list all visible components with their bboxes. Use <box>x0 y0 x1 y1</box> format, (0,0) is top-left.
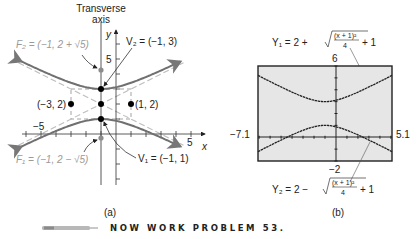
left-point-label: (−3, 2) <box>37 99 66 110</box>
pencil-icon <box>42 226 98 230</box>
focus-f1-pointer <box>84 140 97 152</box>
vertex-v1-point <box>98 116 104 122</box>
focus-f2-pointer <box>82 55 97 68</box>
vertex-v2-point <box>98 86 104 92</box>
center-point <box>98 101 104 107</box>
x-axis-label: x <box>201 141 208 152</box>
y-axis-label: y <box>105 29 112 40</box>
tick-label-y-5: 5 <box>106 54 112 65</box>
y1-frac-den: 4 <box>343 42 347 49</box>
y1-plus-one: + 1 <box>362 37 377 48</box>
y2-plus-one: + 1 <box>360 184 375 195</box>
y2-frac-den: 4 <box>341 189 345 196</box>
y1-prefix: Y₁ = 2 + <box>272 37 308 48</box>
focus-f1-label: F₁ = (−1, 2 − √5) <box>16 154 88 165</box>
figure-b: Y₁ = 2 + (x + 1)² 4 + 1 6 −7.1 5.1 −2 Y₂… <box>230 31 410 218</box>
y2-frac-num: (x + 1)² <box>332 179 355 187</box>
figure-a-caption: (a) <box>104 207 116 218</box>
transverse-axis-label-2: axis <box>92 14 110 25</box>
now-work-banner: NOW WORK PROBLEM 53. <box>42 223 286 233</box>
figure-canvas: x y −5 5 5 Transverse axis (−3, 2) (1, 2… <box>0 0 420 239</box>
ymax-label: 6 <box>332 53 338 64</box>
ymin-label: −2 <box>329 164 341 175</box>
focus-f2-point <box>98 67 103 72</box>
figure-b-caption: (b) <box>332 207 344 218</box>
vertex-v2-label: V₂ = (−1, 3) <box>126 36 177 47</box>
transverse-axis-label: Transverse <box>76 3 126 14</box>
y1-equation: Y₁ = 2 + (x + 1)² 4 + 1 <box>272 31 377 49</box>
vertex-v1-label: V₁ = (−1, 1) <box>138 153 189 164</box>
right-point-label: (1, 2) <box>135 99 158 110</box>
xmax-label: 5.1 <box>396 129 410 140</box>
tick-label-x-5: 5 <box>187 137 193 148</box>
focus-f2-label: F₂ = (−1, 2 + √5) <box>16 39 89 50</box>
figure-a: x y −5 5 5 Transverse axis (−3, 2) (1, 2… <box>16 3 208 218</box>
y2-prefix: Y₂ = 2 − <box>272 184 308 195</box>
now-work-text[interactable]: NOW WORK PROBLEM 53. <box>110 223 286 233</box>
vertex-v1-pointer <box>104 122 136 158</box>
focus-f1-point <box>98 135 103 140</box>
tick-label-x-neg5: −5 <box>33 121 45 132</box>
right-box-point <box>128 101 134 107</box>
y1-frac-num: (x + 1)² <box>334 32 357 40</box>
y2-equation: Y₂ = 2 − (x + 1)² 4 + 1 <box>272 178 375 196</box>
calculator-screen <box>258 66 392 161</box>
xmin-label: −7.1 <box>230 129 250 140</box>
left-box-point <box>68 101 74 107</box>
